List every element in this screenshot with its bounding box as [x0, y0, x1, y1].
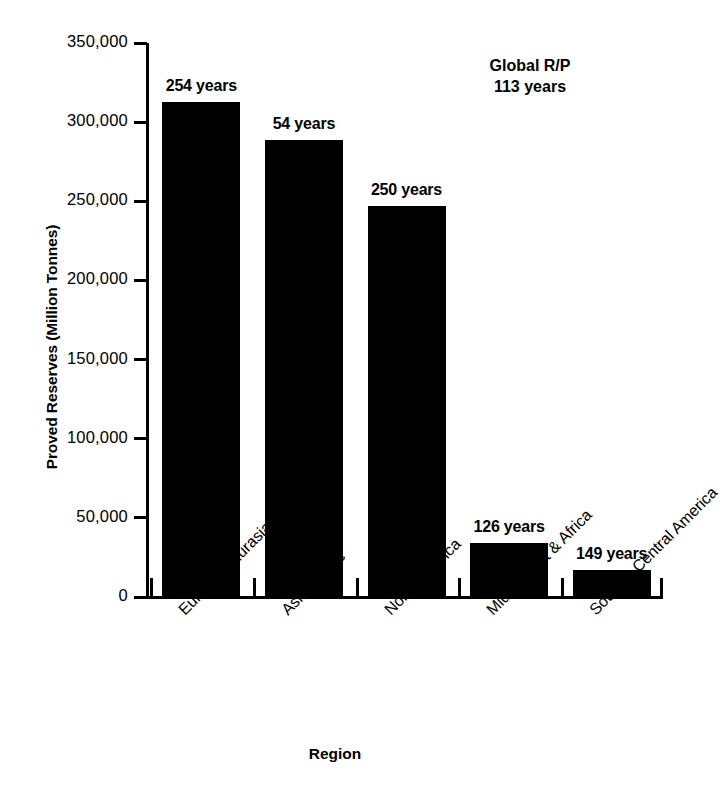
bar-value-label: 250 years [337, 181, 477, 199]
x-axis-tick [253, 578, 256, 597]
x-axis-tick [356, 578, 359, 597]
y-axis-tick-label: 250,000 [0, 190, 128, 209]
bar [162, 102, 240, 597]
y-axis-tick [134, 121, 147, 124]
bar-value-label: 254 years [131, 77, 271, 95]
x-axis-tick [458, 578, 461, 597]
global-rp-line2: 113 years [430, 76, 630, 97]
global-rp-annotation: Global R/P 113 years [430, 55, 630, 97]
y-axis-tick-label: 200,000 [0, 269, 128, 288]
y-axis-tick [134, 200, 147, 203]
y-axis-tick [134, 42, 147, 45]
x-axis-tick [150, 578, 153, 597]
bar [368, 206, 446, 597]
y-axis-tick [134, 279, 147, 282]
y-axis-tick-label: 0 [0, 586, 128, 605]
y-axis-tick-label: 100,000 [0, 428, 128, 447]
y-axis-tick-label: 300,000 [0, 111, 128, 130]
y-axis-tick [134, 358, 147, 361]
bar [265, 140, 343, 597]
bar-value-label: 54 years [234, 115, 374, 133]
y-axis-tick [134, 516, 147, 519]
x-axis-tick [561, 578, 564, 597]
x-axis-title: Region [0, 745, 670, 763]
x-axis-tick [660, 578, 663, 597]
y-axis-tick-label: 350,000 [0, 32, 128, 51]
y-axis-tick [134, 437, 147, 440]
y-axis-tick [134, 596, 147, 599]
global-rp-line1: Global R/P [430, 55, 630, 76]
y-axis-tick-label: 150,000 [0, 349, 128, 368]
y-axis-tick-label: 50,000 [0, 507, 128, 526]
